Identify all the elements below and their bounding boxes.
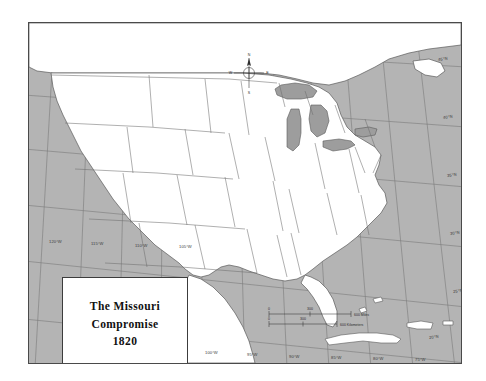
scale-bar-miles: 0 300 600 Miles [268,307,369,317]
longitude-label-90w: 90°W [289,354,299,359]
compass-east-label: E [266,71,269,75]
scale-miles-start: 0 [268,307,270,311]
compass-rose: N E S W [225,49,273,95]
scale-bar: 0 300 600 Miles 0 300 600 Kilometers [265,305,381,329]
compass-west-label: W [229,71,233,75]
longitude-label-95w: 95°W [247,352,257,357]
map-screenshot: N E S W 0 300 600 Miles 0 [0,0,486,381]
longitude-label-100w: 100°W [205,350,218,355]
longitude-label-105w: 105°W [179,244,192,249]
longitude-label-120w: 120°W [49,239,62,244]
map-title-line2: Compromise [91,319,158,331]
longitude-label-110w: 110°W [135,243,148,248]
compass-south-label: S [248,91,251,95]
longitude-label-85w: 85°W [331,355,341,360]
map-title-line1: The Missouri [90,301,160,313]
map-title-year: 1820 [113,336,138,348]
longitude-label-115w: 115°W [91,241,104,246]
map-frame[interactable]: N E S W 0 300 600 Miles 0 [28,22,462,364]
longitude-label-80w: 80°W [373,356,383,361]
scale-km-end: 600 Kilometers [340,323,364,327]
scale-km-start: 0 [268,317,270,321]
map-title-inset: The Missouri Compromise 1820 [62,277,188,364]
scale-miles-mid: 300 [307,307,313,311]
longitude-label-75w: 75°W [415,357,425,362]
scale-bar-kilometers: 0 300 600 Kilometers [268,317,364,327]
scale-miles-end: 600 Miles [354,313,369,317]
compass-north-label: N [248,53,251,57]
scale-km-mid: 300 [300,317,306,321]
